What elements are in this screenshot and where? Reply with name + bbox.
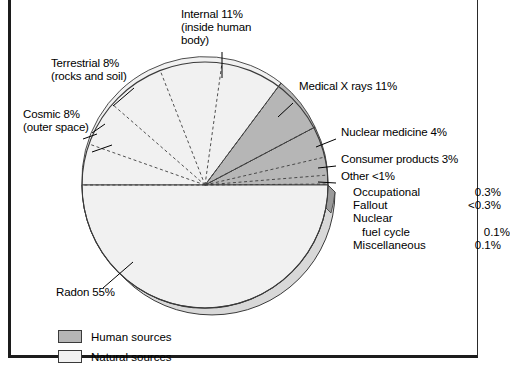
other-row-fallout: Fallout <0.3% (353, 199, 510, 212)
label-other: Other <1% (341, 170, 395, 183)
label-radon: Radon 55% (56, 286, 115, 299)
label-internal-line1: Internal 11% (181, 8, 243, 20)
other-row-occupational: Occupational 0.3% (353, 186, 510, 199)
label-medical-x-rays: Medical X rays 11% (299, 80, 397, 93)
other-row-occupational-value: 0.3% (449, 186, 501, 199)
label-nuclear-medicine: Nuclear medicine 4% (341, 126, 447, 139)
other-row-miscellaneous-value: 0.1% (449, 239, 501, 252)
other-row-fuel-cycle-value: 0.1% (458, 226, 510, 239)
other-row-fuel-cycle: fuel cycle 0.1% (353, 226, 510, 239)
legend-label-natural: Natural sources (91, 351, 172, 363)
label-internal-line3: body) (181, 34, 209, 46)
label-terrestrial-line2: (rocks and soil) (51, 70, 127, 82)
slice-radon (82, 185, 328, 308)
label-internal-line2: (inside human (181, 21, 251, 33)
label-consumer-products: Consumer products 3% (341, 153, 458, 166)
other-row-occupational-name: Occupational (353, 186, 449, 199)
label-cosmic-line1: Cosmic 8% (23, 108, 80, 120)
other-row-fallout-name: Fallout (353, 199, 449, 212)
legend-swatch-human (58, 330, 82, 343)
label-terrestrial-line1: Terrestrial 8% (51, 57, 119, 69)
label-cosmic-line2: (outer space) (23, 121, 89, 133)
other-row-miscellaneous: Miscellaneous 0.1% (353, 239, 510, 252)
other-row-nuclear: Nuclear (353, 212, 510, 225)
legend-label-human: Human sources (91, 331, 172, 343)
other-row-nuclear-name: Nuclear (353, 212, 449, 225)
legend-item-human: Human sources (58, 330, 172, 343)
label-terrestrial: Terrestrial 8%(rocks and soil) (51, 57, 127, 83)
legend-item-natural: Natural sources (58, 350, 172, 363)
label-cosmic: Cosmic 8%(outer space) (23, 108, 89, 134)
other-row-miscellaneous-name: Miscellaneous (353, 239, 449, 252)
legend: Human sources Natural sources (58, 330, 172, 370)
legend-swatch-natural (58, 350, 82, 363)
other-row-fallout-value: <0.3% (449, 199, 501, 212)
label-internal: Internal 11%(inside humanbody) (181, 8, 251, 48)
other-row-fuel-cycle-name: fuel cycle (353, 226, 458, 239)
other-row-nuclear-value (449, 212, 501, 225)
other-breakdown-table: Occupational 0.3% Fallout <0.3% Nuclear … (353, 186, 510, 252)
